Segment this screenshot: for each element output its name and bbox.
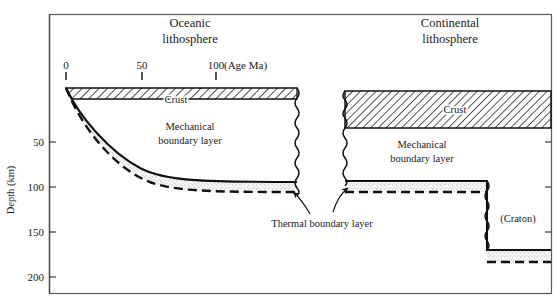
continental-heading-line1: Continental bbox=[421, 16, 480, 30]
continental-thermal-boundary-band bbox=[345, 181, 487, 192]
age-axis: 0 50 100 (Age Ma) bbox=[63, 59, 267, 80]
depth-tick-label-100: 100 bbox=[28, 181, 45, 193]
continental-mechanical-label-line1: Mechanical bbox=[398, 139, 447, 150]
depth-axis: 50 100 150 200 Depth (km) bbox=[5, 15, 56, 294]
depth-tick-label-50: 50 bbox=[33, 136, 45, 148]
cross-section-diagram: 50 100 150 200 Depth (km) 0 50 100 (Age … bbox=[0, 0, 558, 305]
thermal-boundary-annotation: Thermal boundary layer bbox=[271, 188, 373, 229]
age-tick-label-100: 100 bbox=[208, 59, 225, 71]
continental-mechanical-label-line2: boundary layer bbox=[390, 153, 454, 164]
oceanic-cut-edge-wavy bbox=[295, 88, 299, 196]
craton-label: (Craton) bbox=[500, 213, 536, 225]
continental-crust-label: Crust bbox=[444, 104, 467, 115]
continental-section: Crust Mechanical boundary layer (Craton) bbox=[343, 91, 551, 262]
oceanic-heading-line2: lithosphere bbox=[162, 32, 218, 46]
age-axis-unit-label: (Age Ma) bbox=[224, 59, 267, 72]
craton-thermal-boundary-band bbox=[487, 250, 551, 262]
thermal-boundary-leader-left bbox=[293, 192, 310, 214]
oceanic-heading-line1: Oceanic bbox=[170, 16, 211, 30]
figure-container: 50 100 150 200 Depth (km) 0 50 100 (Age … bbox=[0, 0, 558, 305]
oceanic-mechanical-label-line2: boundary layer bbox=[158, 135, 222, 146]
depth-axis-label: Depth (km) bbox=[5, 165, 17, 214]
depth-tick-label-200: 200 bbox=[28, 271, 45, 283]
age-tick-label-50: 50 bbox=[137, 59, 149, 71]
thermal-boundary-layer-label: Thermal boundary layer bbox=[271, 218, 373, 229]
continental-mantle-cut-edge-wavy bbox=[343, 128, 347, 186]
figure-frame bbox=[50, 15, 552, 294]
depth-tick-label-150: 150 bbox=[28, 226, 45, 238]
oceanic-crust-label: Crust bbox=[165, 94, 188, 105]
continental-heading-line2: lithosphere bbox=[422, 32, 478, 46]
oceanic-mechanical-label-line1: Mechanical bbox=[166, 121, 215, 132]
right-depth-ticks bbox=[545, 142, 552, 232]
age-tick-label-0: 0 bbox=[63, 59, 69, 71]
oceanic-section: Crust Mechanical boundary layer bbox=[66, 88, 299, 196]
section-headings: Oceanic lithosphere Continental lithosph… bbox=[162, 16, 479, 46]
